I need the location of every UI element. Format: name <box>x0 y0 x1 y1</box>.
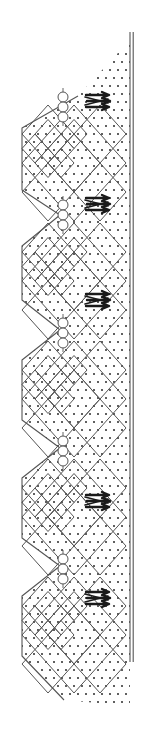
stipple-dot <box>109 245 111 247</box>
stipple-dot <box>61 613 63 615</box>
stipple-dot <box>53 469 55 471</box>
stipple-dot <box>81 157 83 159</box>
stipple-dot <box>113 669 115 671</box>
stipple-dot <box>37 309 39 311</box>
stipple-dot <box>109 165 111 167</box>
stipple-dot <box>45 677 47 679</box>
stipple-dot <box>53 645 55 647</box>
stipple-dot <box>29 277 31 279</box>
stipple-dot <box>93 453 95 455</box>
stipple-dot <box>121 253 123 255</box>
chain-circle <box>58 564 68 574</box>
stipple-dot <box>25 653 27 655</box>
stipple-dot <box>45 421 47 423</box>
stipple-dot <box>101 389 103 391</box>
stipple-dot <box>97 685 99 687</box>
stipple-dot <box>61 389 63 391</box>
stipple-dot <box>57 237 59 239</box>
stipple-dot <box>113 109 115 111</box>
stipple-dot <box>117 485 119 487</box>
stipple-dot <box>57 301 59 303</box>
stipple-dot <box>125 693 127 695</box>
stipple-dot <box>61 245 63 247</box>
stipple-dot <box>65 413 67 415</box>
stipple-dot <box>109 229 111 231</box>
stipple-dot <box>97 109 99 111</box>
stipple-dot <box>89 605 91 607</box>
stipple-dot <box>125 501 127 503</box>
stipple-dot <box>113 333 115 335</box>
stipple-dot <box>77 165 79 167</box>
stipple-dot <box>85 581 87 583</box>
stipple-dot <box>105 621 107 623</box>
stipple-dot <box>105 253 107 255</box>
stipple-dot <box>65 669 67 671</box>
stipple-dot <box>93 661 95 663</box>
stipple-dot <box>81 589 83 591</box>
stipple-dot <box>77 405 79 407</box>
stipple-dot <box>113 589 115 591</box>
stipple-dot <box>117 197 119 199</box>
stipple-dot <box>105 381 107 383</box>
stipple-dot <box>85 181 87 183</box>
stipple-dot <box>109 693 111 695</box>
stipple-dot <box>69 325 71 327</box>
stipple-dot <box>41 365 43 367</box>
stipple-dot <box>49 157 51 159</box>
stipple-dot <box>65 541 67 543</box>
stipple-dot <box>105 573 107 575</box>
stipple-dot <box>125 613 127 615</box>
stipple-dot <box>61 629 63 631</box>
stipple-dot <box>77 693 79 695</box>
stipple-dot <box>105 701 107 703</box>
stipple-dot <box>117 501 119 503</box>
stipple-dot <box>97 253 99 255</box>
stipple-dot <box>73 685 75 687</box>
stipple-dot <box>117 677 119 679</box>
stipple-dot <box>69 469 71 471</box>
stipple-dot <box>101 613 103 615</box>
stipple-dot <box>73 141 75 143</box>
stipple-dot <box>41 589 43 591</box>
stipple-dot <box>125 645 127 647</box>
stipple-dot <box>41 605 43 607</box>
stipple-dot <box>121 125 123 127</box>
stipple-dot <box>121 93 123 95</box>
stipple-dot <box>109 453 111 455</box>
stipple-dot <box>37 245 39 247</box>
stipple-dot <box>33 285 35 287</box>
stipple-dot <box>77 501 79 503</box>
stipple-dot <box>57 141 59 143</box>
stipple-dot <box>41 269 43 271</box>
stipple-dot <box>89 413 91 415</box>
stipple-dot <box>109 677 111 679</box>
stipple-dot <box>125 549 127 551</box>
stipple-dot <box>109 629 111 631</box>
stipple-dot <box>33 653 35 655</box>
stipple-dot <box>49 141 51 143</box>
stipple-dot <box>81 333 83 335</box>
stipple-dot <box>101 357 103 359</box>
stipple-dot <box>53 181 55 183</box>
stipple-dot <box>85 149 87 151</box>
stipple-dot <box>113 445 115 447</box>
stipple-dot <box>37 357 39 359</box>
stipple-dot <box>81 253 83 255</box>
stipple-dot <box>29 661 31 663</box>
stipple-dot <box>93 277 95 279</box>
stipple-dot <box>37 613 39 615</box>
stipple-dot <box>49 285 51 287</box>
stipple-dot <box>57 605 59 607</box>
stipple-dot <box>113 285 115 287</box>
stipple-dot <box>41 253 43 255</box>
stipple-dot <box>65 237 67 239</box>
stipple-dot <box>125 69 127 71</box>
stipple-dot <box>57 381 59 383</box>
stipple-dot <box>77 677 79 679</box>
stipple-dot <box>121 221 123 223</box>
stipple-dot <box>45 613 47 615</box>
stipple-dot <box>81 397 83 399</box>
flow-arrow-5 <box>85 589 110 607</box>
stipple-dot <box>101 645 103 647</box>
stipple-dot <box>121 557 123 559</box>
